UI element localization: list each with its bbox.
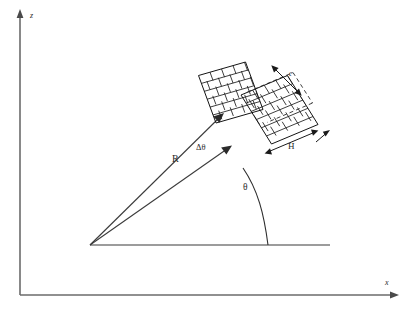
lower-ray-arrowhead xyxy=(221,146,232,155)
theta-label: θ xyxy=(243,182,248,192)
delta-theta-label: Δθ xyxy=(196,142,206,152)
z-axis-label: z xyxy=(29,11,34,20)
x-axis-label: x xyxy=(384,278,389,287)
lower-radius-ray xyxy=(90,149,227,245)
x-axis-arrowhead xyxy=(390,292,399,299)
thickness-label: H xyxy=(288,141,295,151)
radius-label-group: R xyxy=(172,153,179,164)
diagram-svg: z x θ Δθ R xyxy=(0,0,410,312)
radius-label: R xyxy=(172,153,179,164)
block-size-label: e xyxy=(289,69,293,78)
axis-group: z x xyxy=(17,9,399,298)
left-wall-panel xyxy=(199,62,264,123)
right-wall-panel xyxy=(241,75,318,144)
dashed-edge-right xyxy=(293,73,313,104)
figure-canvas: z x θ Δθ R xyxy=(0,0,410,312)
radial-rays-group xyxy=(90,113,232,245)
H-arrowhead-right xyxy=(311,129,318,135)
z-axis-arrowhead xyxy=(17,9,24,18)
theta-arc xyxy=(243,168,268,245)
H-arrowhead-left xyxy=(265,148,272,154)
upper-radius-ray xyxy=(90,118,219,245)
delta-theta-group: Δθ xyxy=(196,142,206,152)
theta-arc-group: θ xyxy=(243,168,268,245)
